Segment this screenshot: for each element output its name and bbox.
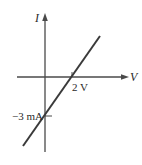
x-axis-arrow-icon xyxy=(121,74,129,80)
iv-graph: I V 2 V −3 mA xyxy=(0,0,142,165)
y-axis-label: I xyxy=(35,12,39,24)
iv-line xyxy=(23,36,100,146)
y-intercept-label: −3 mA xyxy=(12,111,43,122)
x-intercept-label: 2 V xyxy=(72,82,88,93)
y-axis-arrow-icon xyxy=(42,13,48,21)
graph-canvas xyxy=(0,0,142,165)
x-axis-label: V xyxy=(130,71,137,83)
